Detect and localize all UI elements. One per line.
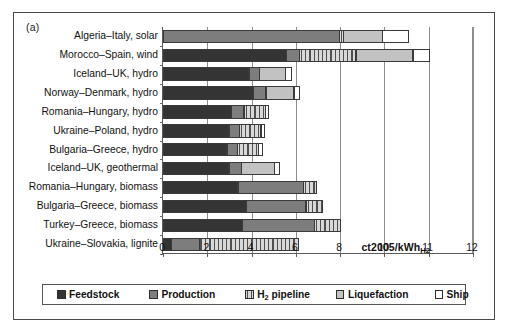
bar-segment-liquefaction [356,49,414,62]
category-axis-labels: Algeria–Italy, solarMorocco–Spain, windI… [14,27,162,254]
stacked-bar[interactable] [163,219,341,232]
legend-item-feedstock[interactable]: Feedstock [57,289,119,300]
stacked-bar[interactable] [163,105,269,118]
bar-segment-feedstock [163,49,287,62]
bar-segment-feedstock [163,105,232,118]
bar-segment-h2-pipeline [237,143,259,156]
x-tick-12 [473,253,474,257]
medium-gray-square-icon [149,290,158,299]
x-tick-label-0: 0 [159,242,165,253]
bar-segment-ship [294,86,301,99]
bar-segment-feedstock [163,219,243,232]
stacked-bar[interactable] [163,181,317,194]
bar-segment-feedstock [163,67,249,80]
gridline-12 [473,27,474,253]
legend-label: Liquefaction [348,289,409,300]
plot-area [162,27,473,254]
legend-item-h2-pipeline[interactable]: H2 pipeline [245,289,310,300]
legend-label: Feedstock [69,289,119,300]
bar-segment-liquefaction [266,86,295,99]
y-tick [160,197,164,198]
legend-label: Production [161,289,215,300]
stacked-bar[interactable] [163,86,300,99]
stacked-bar[interactable] [163,143,263,156]
bar-segment-production [163,30,340,43]
y-tick [160,46,164,47]
y-tick [160,159,164,160]
bar-segment-ship [413,49,431,62]
x-tick-label-8: 8 [336,242,342,253]
bar-segment-feedstock [163,200,247,213]
category-label: Algeria–Italy, solar [74,27,158,46]
x-tick-label-6: 6 [292,242,298,253]
bar-segment-liquefaction [343,30,383,43]
bar-segment-production [242,219,315,232]
bar-segment-liquefaction [259,67,286,80]
unit-subscript: H2 [420,246,430,255]
y-tick [160,235,164,236]
figure-panel: (a) Algeria–Italy, solarMorocco–Spain, w… [13,12,495,320]
bar-segment-feedstock [163,181,238,194]
legend-label: H2 pipeline [257,289,310,300]
y-tick [160,65,164,66]
stacked-bar[interactable] [163,30,409,43]
category-label: Morocco–Spain, wind [60,46,158,65]
plot-right-edge [472,27,473,253]
stacked-bar[interactable] [163,162,280,175]
bar-segment-ship [274,162,281,175]
bar-segment-ship [265,105,269,118]
legend-item-production[interactable]: Production [149,289,215,300]
hatched-square-icon [245,290,254,299]
stacked-bar[interactable] [163,124,265,137]
category-label: Ukraine–Poland, hydro [53,122,158,141]
category-label: Bulgaria–Greece, hydro [49,141,158,160]
bar-segment-ship [258,143,262,156]
plot-wrapper: Algeria–Italy, solarMorocco–Spain, windI… [14,27,496,272]
category-label: Norway–Denmark, hydro [44,84,158,103]
y-tick [160,216,164,217]
bar-segment-h2-pipeline [306,200,324,213]
legend-item-ship[interactable]: Ship [435,289,469,300]
bar-segment-h2-pipeline [239,124,261,137]
category-label: Bulgaria–Greece, biomass [37,197,158,216]
x-tick-label-4: 4 [248,242,254,253]
bar-segment-ship [285,67,292,80]
stacked-bar[interactable] [163,200,323,213]
bar-segment-h2-pipeline [303,181,316,194]
category-label: Iceland–UK, hydro [73,65,158,84]
light-gray-square-icon [336,290,345,299]
bar-segment-liquefaction [241,162,274,175]
category-label: Romania–Hungary, biomass [29,178,158,197]
bar-segment-h2-pipeline [299,49,357,62]
stacked-bar[interactable] [163,67,292,80]
category-label: Iceland–UK, geothermal [48,159,158,178]
y-tick [160,122,164,123]
legend-label: Ship [447,289,469,300]
x-tick-label-2: 2 [203,242,209,253]
bar-segment-ship [261,124,265,137]
y-tick [160,84,164,85]
dark-gray-square-icon [57,290,66,299]
bar-segment-feedstock [163,143,227,156]
white-square-icon [435,290,444,299]
bar-segment-production [231,105,244,118]
y-tick [160,178,164,179]
bar-segment-h2-pipeline [244,105,266,118]
x-tick-label-12: 12 [466,242,477,253]
y-tick [160,103,164,104]
category-label: Romania–Hungary, hydro [41,103,158,122]
bar-segment-h2-pipeline [314,219,341,232]
bar-segment-production [253,86,266,99]
category-label: Turkey–Greece, biomass [43,216,158,235]
bar-segment-feedstock [163,86,254,99]
bar-segment-production [238,181,304,194]
bar-segment-feedstock [163,124,229,137]
stacked-bar[interactable] [163,49,430,62]
bar-segment-feedstock [163,162,229,175]
chart-legend: FeedstockProductionH2 pipelineLiquefacti… [42,284,466,305]
legend-item-liquefaction[interactable]: Liquefaction [336,289,409,300]
unit-annotation: ct2005/kWhH2 [361,241,430,253]
category-label: Ukraine–Slovakia, lignite [45,235,158,254]
bar-segment-production [246,200,306,213]
bar-segment-ship [382,30,409,43]
